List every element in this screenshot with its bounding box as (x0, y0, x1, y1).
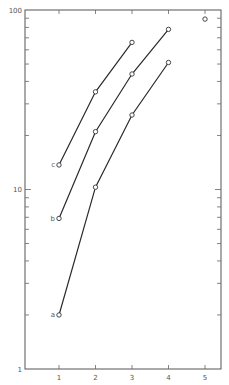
series-a-point (130, 113, 134, 117)
y-tick-label: 100 (9, 7, 22, 15)
series-a-line (59, 62, 169, 314)
y-axis-ticks: 110100 (9, 7, 221, 374)
x-tick-label: 1 (57, 374, 61, 382)
series-c-line (59, 42, 132, 165)
series-a-point (57, 313, 61, 317)
series-c-label: c (51, 161, 55, 169)
series-c-point (130, 40, 134, 44)
isolated-point (203, 17, 207, 21)
series-a-point (93, 185, 97, 189)
series-a-label: a (51, 311, 55, 319)
x-tick-label: 3 (130, 374, 134, 382)
series-b-point (130, 72, 134, 76)
log-scale-line-chart: 110100 12345 abc (0, 0, 229, 385)
x-tick-label: 4 (166, 374, 171, 382)
y-tick-label: 10 (13, 186, 22, 194)
series-b-point (93, 129, 97, 133)
x-tick-label: 5 (203, 374, 207, 382)
x-axis-ticks: 12345 (57, 10, 207, 382)
series-b-point (166, 27, 170, 31)
x-tick-label: 2 (93, 374, 97, 382)
series (59, 29, 169, 315)
data-points: abc (51, 17, 208, 320)
series-b-line (59, 29, 169, 218)
series-b-label: b (51, 215, 56, 223)
series-c-point (93, 90, 97, 94)
series-c-point (57, 163, 61, 167)
series-a-point (166, 60, 170, 64)
series-b-point (57, 216, 61, 220)
y-tick-label: 1 (18, 366, 22, 374)
